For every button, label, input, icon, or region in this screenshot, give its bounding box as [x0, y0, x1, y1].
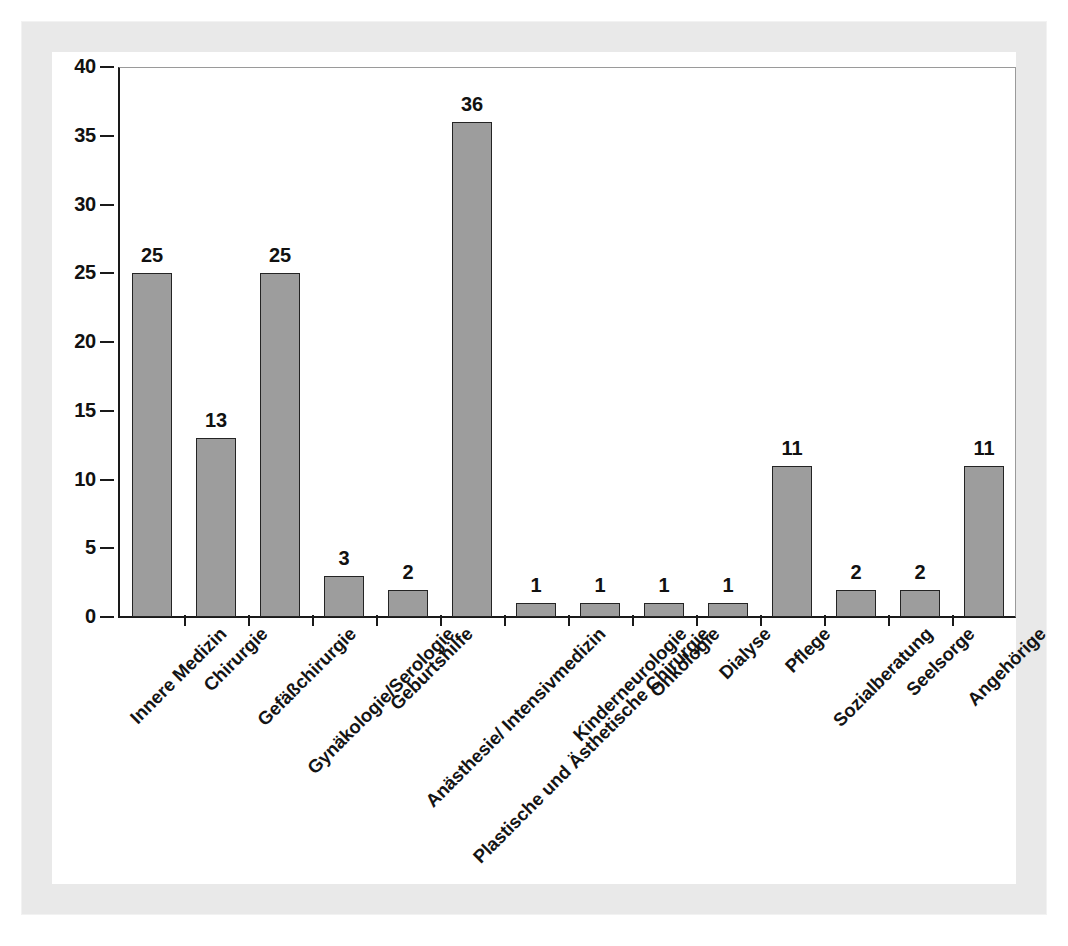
bar-series: 25132532361111112211	[120, 67, 1016, 617]
bar	[708, 603, 749, 617]
y-axis-tick-label: 25	[74, 261, 96, 284]
bar-slot: 3	[312, 67, 376, 617]
bar-slot: 1	[504, 67, 568, 617]
y-axis-tick-label: 5	[85, 536, 96, 559]
bar	[132, 273, 173, 617]
y-axis-tick-label: 35	[74, 124, 96, 147]
bar-value-label: 13	[184, 409, 248, 432]
y-axis-tick-mark	[100, 204, 114, 206]
y-axis-tick-label: 0	[85, 605, 96, 628]
bar-value-label: 2	[824, 561, 888, 584]
bar	[452, 122, 493, 617]
y-axis-tick-mark	[100, 341, 114, 343]
scanned-chart-page: 0510152025303540 25132532361111112211 In…	[0, 0, 1068, 946]
y-axis-tick-label: 20	[74, 330, 96, 353]
bar-value-label: 1	[632, 574, 696, 597]
bar	[964, 466, 1005, 617]
bar	[260, 273, 301, 617]
bar-slot: 36	[440, 67, 504, 617]
bar	[772, 466, 813, 617]
bar	[516, 603, 557, 617]
bar-value-label: 25	[120, 244, 184, 267]
y-axis-tick-mark	[100, 135, 114, 137]
y-axis-tick-label: 10	[74, 468, 96, 491]
y-axis-tick-mark	[100, 66, 114, 68]
bar-value-label: 3	[312, 547, 376, 570]
x-axis-category-label: Dialyse	[715, 623, 776, 684]
y-axis-tick-mark	[100, 479, 114, 481]
bar	[388, 590, 429, 618]
bar-slot: 2	[376, 67, 440, 617]
bar-slot: 11	[760, 67, 824, 617]
bar-value-label: 11	[952, 437, 1016, 460]
y-axis-tick-label: 15	[74, 399, 96, 422]
x-axis-category-label: Pflege	[781, 623, 835, 677]
y-axis-tick-mark	[100, 616, 114, 618]
bar-value-label: 11	[760, 437, 824, 460]
bar	[900, 590, 941, 618]
bar-slot: 2	[824, 67, 888, 617]
bar-slot: 25	[248, 67, 312, 617]
bar-slot: 1	[632, 67, 696, 617]
bar-value-label: 2	[888, 561, 952, 584]
bar	[580, 603, 621, 617]
bar-value-label: 25	[248, 244, 312, 267]
y-axis-tick-mark	[100, 410, 114, 412]
bar-slot: 1	[568, 67, 632, 617]
bar-value-label: 36	[440, 93, 504, 116]
y-axis-tick-mark	[100, 272, 114, 274]
bar-chart: 0510152025303540 25132532361111112211 In…	[0, 0, 1068, 946]
bar	[196, 438, 237, 617]
bar-value-label: 1	[696, 574, 760, 597]
bar	[836, 590, 877, 618]
bar-slot: 13	[184, 67, 248, 617]
bar-slot: 25	[120, 67, 184, 617]
bar-value-label: 2	[376, 561, 440, 584]
bar-value-label: 1	[568, 574, 632, 597]
bar-slot: 11	[952, 67, 1016, 617]
y-axis-tick-label: 30	[74, 193, 96, 216]
bar-value-label: 1	[504, 574, 568, 597]
y-axis-tick-label: 40	[74, 55, 96, 78]
y-axis-tick-mark	[100, 547, 114, 549]
bar-slot: 2	[888, 67, 952, 617]
bar-slot: 1	[696, 67, 760, 617]
bar	[324, 576, 365, 617]
x-axis-category-labels: Innere MedizinChirurgieGefäßchirurgieGyn…	[120, 621, 1016, 921]
bar	[644, 603, 685, 617]
